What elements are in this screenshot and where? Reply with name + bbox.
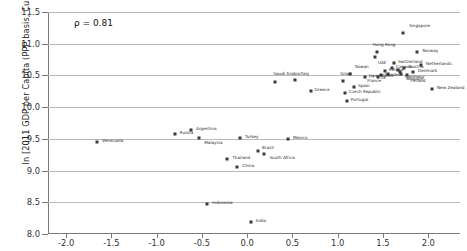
data-point-label: Denmark xyxy=(418,69,437,73)
y-tick xyxy=(42,44,48,45)
y-tick xyxy=(42,107,48,108)
x-tick-label: 1.0 xyxy=(331,238,344,248)
y-tick-label: 11.0 xyxy=(21,39,40,49)
data-point xyxy=(342,79,345,82)
x-axis-line xyxy=(48,233,460,234)
data-point-label: Hong Kong xyxy=(373,43,396,47)
data-point xyxy=(373,56,376,59)
data-point xyxy=(198,136,201,139)
y-tick xyxy=(42,234,48,235)
scatter-chart: ln [2011 GDP per Capita (PPP basis, Curr… xyxy=(0,0,467,251)
data-point xyxy=(294,78,297,81)
data-point-label: Finland xyxy=(411,79,426,83)
plot-area: 8.08.59.09.510.010.511.011.5 -2.0-1.5-1.… xyxy=(48,12,460,234)
data-point xyxy=(309,90,312,93)
data-point-label: Norway xyxy=(422,49,438,53)
data-point-label: Argentina xyxy=(196,127,216,131)
data-point xyxy=(392,61,395,64)
data-point xyxy=(375,50,378,53)
data-point xyxy=(363,75,366,78)
data-point xyxy=(383,69,386,72)
data-point xyxy=(353,85,356,88)
data-point-label: Italy xyxy=(300,72,309,76)
gridline xyxy=(48,44,460,45)
y-tick-label: 9.5 xyxy=(27,134,40,144)
data-point-label: India xyxy=(256,219,266,223)
x-tick-label: -1.5 xyxy=(103,238,119,248)
data-point-label: Thailand xyxy=(232,156,250,160)
data-point-label: Portugal xyxy=(351,98,368,102)
gridline xyxy=(48,107,460,108)
data-point xyxy=(95,141,98,144)
y-tick-label: 8.0 xyxy=(27,229,40,239)
y-tick xyxy=(42,202,48,203)
data-point xyxy=(344,92,347,95)
data-point-label: Turkey xyxy=(245,135,259,139)
correlation-annotation: ρ = 0.81 xyxy=(74,18,113,28)
y-tick xyxy=(42,171,48,172)
data-point xyxy=(238,136,241,139)
data-point xyxy=(249,220,252,223)
y-tick-label: 10.5 xyxy=(21,70,40,80)
y-tick-label: 11.5 xyxy=(21,7,40,17)
data-point xyxy=(257,149,260,152)
data-point-label: South Africa xyxy=(269,156,294,160)
data-point-label: Saudi Arabia xyxy=(273,72,300,76)
x-tick-label: -1.0 xyxy=(148,238,164,248)
x-tick-label: 0.0 xyxy=(241,238,254,248)
gridline xyxy=(48,12,460,13)
data-point xyxy=(206,202,209,205)
x-tick-label: 0.5 xyxy=(286,238,299,248)
y-tick xyxy=(42,139,48,140)
data-point-label: New Zealand xyxy=(437,86,465,90)
x-tick-label: -2.0 xyxy=(58,238,74,248)
data-point-label: Spain xyxy=(358,84,370,88)
data-point-label: China xyxy=(242,164,254,168)
data-point-label: Indonesia xyxy=(212,201,232,205)
data-point-label: Korea xyxy=(382,74,394,78)
y-tick xyxy=(42,12,48,13)
data-point-label: UAE xyxy=(378,61,387,65)
x-tick-label: -0.5 xyxy=(194,238,210,248)
data-point-label: Taiwan xyxy=(354,65,368,69)
gridline xyxy=(48,202,460,203)
y-tick-label: 10.0 xyxy=(21,102,40,112)
data-point xyxy=(400,73,403,76)
data-point-label: Israel xyxy=(340,72,351,76)
y-tick-label: 8.5 xyxy=(27,197,40,207)
data-point xyxy=(401,31,404,34)
data-point xyxy=(405,74,408,77)
data-point-label: Brazil xyxy=(262,146,274,150)
y-axis-line xyxy=(48,12,49,234)
data-point xyxy=(430,88,433,91)
data-point xyxy=(173,132,176,135)
data-point-label: Mexico xyxy=(293,136,308,140)
data-point-label: Russia xyxy=(180,131,193,135)
data-point xyxy=(286,137,289,140)
data-point-label: Czech Republic xyxy=(349,90,381,94)
data-point xyxy=(376,76,379,79)
data-point-label: Malaysia xyxy=(204,141,222,145)
gridline xyxy=(48,171,460,172)
data-point-label: Netherlands xyxy=(426,62,452,66)
data-point xyxy=(345,99,348,102)
x-tick-label: 2.0 xyxy=(422,238,435,248)
data-point xyxy=(274,80,277,83)
y-tick xyxy=(42,75,48,76)
x-tick-label: 1.5 xyxy=(376,238,389,248)
data-point xyxy=(263,153,266,156)
data-point xyxy=(236,165,239,168)
data-point xyxy=(226,158,229,161)
data-point xyxy=(416,50,419,53)
data-point-label: Greece xyxy=(315,88,330,92)
data-point-label: Singapore xyxy=(409,24,430,28)
y-tick-label: 9.0 xyxy=(27,166,40,176)
data-point-label: Venezuela xyxy=(102,139,124,143)
data-point xyxy=(411,71,414,74)
